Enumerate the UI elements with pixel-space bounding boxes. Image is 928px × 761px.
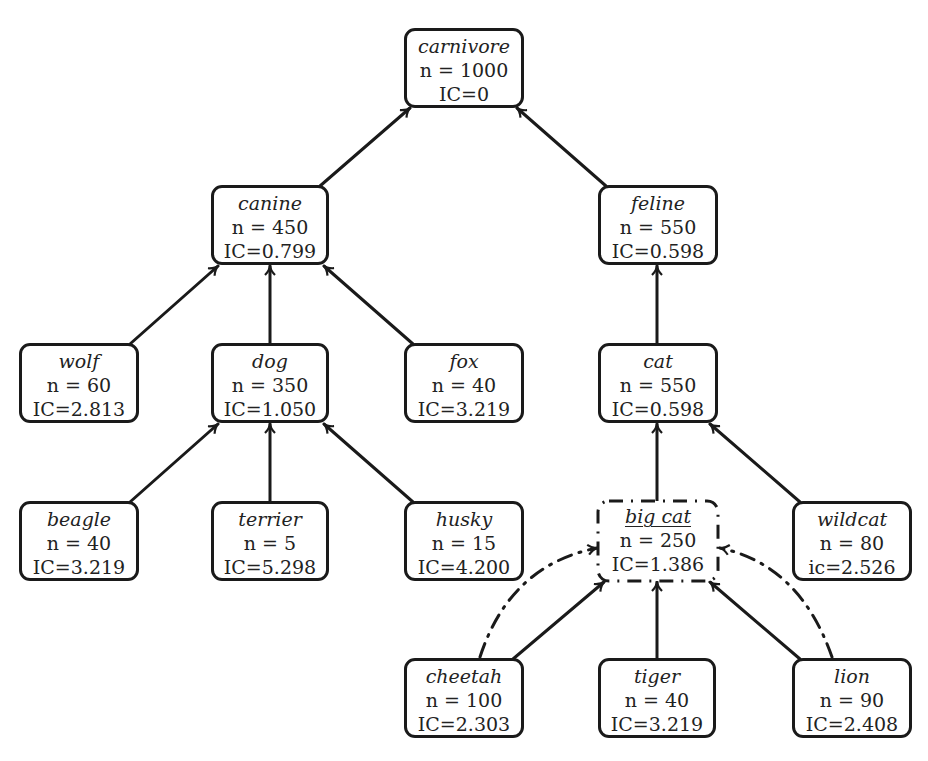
node-count: n = 550 (601, 215, 715, 239)
node-count: n = 250 (598, 528, 718, 552)
node-feline: feline n = 550 IC=0.598 (598, 185, 718, 265)
node-name: dog (214, 349, 326, 373)
edge-cheetah-bigcat (513, 582, 604, 659)
node-name: carnivore (407, 34, 521, 58)
node-ic: IC=0.799 (214, 239, 326, 263)
edge-feline-carnivore (517, 108, 606, 186)
node-carnivore: carnivore n = 1000 IC=0 (404, 28, 524, 108)
node-name: tiger (601, 664, 713, 688)
node-big-cat: big cat n = 250 IC=1.386 (598, 501, 718, 581)
node-ic: IC=5.298 (214, 555, 326, 579)
node-count: n = 5 (214, 531, 326, 555)
node-count: n = 40 (22, 531, 136, 555)
node-ic: IC=0.598 (601, 239, 715, 263)
node-ic: IC=0.598 (601, 397, 715, 421)
node-cat: cat n = 550 IC=0.598 (598, 343, 718, 423)
node-name: wildcat (795, 507, 909, 531)
node-count: n = 80 (795, 531, 909, 555)
node-count: n = 60 (22, 373, 136, 397)
node-ic: ic=2.526 (795, 555, 909, 579)
node-name: beagle (22, 507, 136, 531)
node-count: n = 350 (214, 373, 326, 397)
node-name: terrier (214, 507, 326, 531)
edge-canine-carnivore (320, 108, 410, 186)
edge-fox-canine (324, 266, 413, 344)
node-ic: IC=0 (407, 82, 521, 106)
node-name: big cat (598, 504, 718, 528)
node-wolf: wolf n = 60 IC=2.813 (19, 343, 139, 423)
node-ic: IC=2.813 (22, 397, 136, 421)
node-count: n = 15 (407, 531, 521, 555)
node-ic: IC=1.050 (214, 397, 326, 421)
node-husky: husky n = 15 IC=4.200 (404, 501, 524, 581)
node-ic: IC=2.303 (407, 712, 521, 736)
node-dog: dog n = 350 IC=1.050 (211, 343, 329, 423)
edge-husky-dog (324, 424, 413, 502)
node-ic: IC=2.408 (795, 712, 909, 736)
node-ic: IC=4.200 (407, 555, 521, 579)
node-name: canine (214, 191, 326, 215)
edge-lion-bigcat (710, 582, 800, 659)
node-name: fox (407, 349, 521, 373)
edge-wildcat-cat (710, 424, 800, 502)
node-name: husky (407, 507, 521, 531)
node-name: cheetah (407, 664, 521, 688)
node-ic: IC=3.219 (22, 555, 136, 579)
node-beagle: beagle n = 40 IC=3.219 (19, 501, 139, 581)
node-count: n = 1000 (407, 58, 521, 82)
node-name: feline (601, 191, 715, 215)
taxonomy-diagram: carnivore n = 1000 IC=0 canine n = 450 I… (0, 0, 928, 761)
node-name: cat (601, 349, 715, 373)
node-fox: fox n = 40 IC=3.219 (404, 343, 524, 423)
node-name: wolf (22, 349, 136, 373)
node-count: n = 550 (601, 373, 715, 397)
node-terrier: terrier n = 5 IC=5.298 (211, 501, 329, 581)
node-ic: IC=3.219 (407, 397, 521, 421)
node-count: n = 40 (407, 373, 521, 397)
node-count: n = 100 (407, 688, 521, 712)
edge-wolf-canine (130, 266, 218, 344)
node-tiger: tiger n = 40 IC=3.219 (598, 658, 716, 738)
node-ic: IC=3.219 (601, 712, 713, 736)
node-canine: canine n = 450 IC=0.799 (211, 185, 329, 265)
node-lion: lion n = 90 IC=2.408 (792, 658, 912, 738)
node-count: n = 90 (795, 688, 909, 712)
node-wildcat: wildcat n = 80 ic=2.526 (792, 501, 912, 581)
node-count: n = 40 (601, 688, 713, 712)
node-name: lion (795, 664, 909, 688)
node-count: n = 450 (214, 215, 326, 239)
node-ic: IC=1.386 (598, 552, 718, 576)
node-cheetah: cheetah n = 100 IC=2.303 (404, 658, 524, 738)
edge-beagle-dog (130, 424, 218, 502)
